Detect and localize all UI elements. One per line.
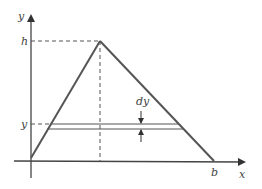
x-axis-label: x [239,168,246,181]
height-label: h [21,35,28,48]
triangle-diagram: y h y dy b x [0,0,262,189]
triangle [31,41,214,161]
diagram-canvas: y h y dy b x [0,0,262,189]
strip-y-label: y [20,118,28,131]
base-label: b [211,166,218,179]
dy-label: dy [136,95,150,108]
horizontal-strip [47,124,183,129]
x-axis [14,161,244,162]
y-axis-label: y [17,10,25,23]
